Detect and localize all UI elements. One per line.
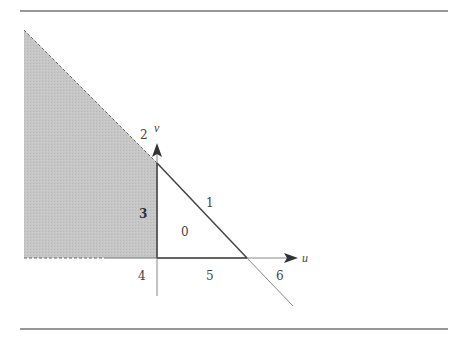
region-label-2: 2 <box>140 128 148 142</box>
region-label-0: 0 <box>181 225 189 239</box>
region-label-6: 6 <box>276 269 284 283</box>
region-label-5: 5 <box>206 269 214 283</box>
region-label-1: 1 <box>206 196 214 210</box>
diagram-canvas: v u 2 1 3 0 4 5 6 <box>0 0 469 337</box>
u-axis-label: u <box>302 251 308 265</box>
diagonal-line-extension <box>247 258 293 306</box>
region-label-4: 4 <box>138 269 146 283</box>
v-axis-label: v <box>154 121 160 135</box>
shaded-region <box>24 30 157 258</box>
diagonal-line-solid <box>157 163 247 258</box>
region-label-3: 3 <box>139 207 147 221</box>
